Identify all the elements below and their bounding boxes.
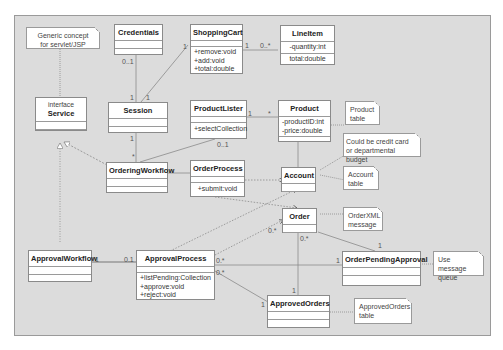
mult-process-approved: 0.* [216, 269, 225, 276]
mult-pending-process: 1 [336, 257, 340, 264]
mult-pending-order: 1 [378, 242, 382, 249]
class-session[interactable]: Session [108, 102, 168, 133]
class-approval-workflow[interactable]: ApprovalWorkflow [28, 250, 92, 282]
class-shopping-cart[interactable]: ShoppingCart +remove:void +add:void +tot… [190, 24, 243, 74]
note-generic-concept: Generic concept for servlet/JSP [26, 27, 100, 49]
note-product-table: Product table [345, 101, 380, 125]
class-account[interactable]: Account [281, 167, 316, 192]
note-credit-card: Could be credit card or departmental bud… [343, 133, 421, 157]
class-order-pending-approval[interactable]: OrderPendingApproval [342, 251, 421, 286]
mult-approvalwf-process: 1 [95, 256, 99, 263]
class-credentials[interactable]: Credentials [114, 24, 163, 55]
note-message-queue: Use message queue [433, 251, 484, 276]
mult-lister-workflow: 0..1 [217, 141, 229, 148]
mult-order-pending: 0.* [300, 235, 309, 242]
mult-session-workflow: 1 [130, 135, 134, 142]
class-approval-process[interactable]: ApprovalProcess +listPending:Collection … [136, 250, 215, 300]
mult-approved-process: 1 [261, 301, 265, 308]
class-order-process[interactable]: OrderProcess +submit:void [190, 160, 245, 197]
mult-product-lister: * [268, 110, 271, 117]
mult-process-approvalwf: 0.1 [124, 256, 134, 263]
class-product[interactable]: Product -productID:int -price:double [278, 100, 331, 142]
mult-credentials-session: 0..1 [122, 58, 134, 65]
class-ordering-workflow[interactable]: OrderingWorkflow [106, 162, 168, 193]
note-order-xml: OrderXML message [343, 207, 383, 231]
note-approved-orders-table: ApprovedOrders table [354, 298, 412, 324]
mult-workflow-session: * [132, 153, 135, 160]
class-line-item[interactable]: LineItem -quantity:int total:double [280, 25, 335, 65]
mult-process-pending: 0.* [216, 257, 225, 264]
mult-lineitem-cart: 0..* [260, 42, 271, 49]
connector-lines [0, 0, 503, 350]
mult-cart-session: 1 [183, 43, 187, 50]
mult-session-credentials: 1 [130, 94, 134, 101]
class-product-lister[interactable]: ProductLister +selectCollection [190, 100, 247, 139]
interface-service[interactable]: interface Service [35, 97, 87, 131]
class-approved-orders[interactable]: ApprovedOrders [267, 295, 330, 328]
note-account-table: Account table [343, 166, 379, 190]
mult-cart-lineitem: 1 [245, 42, 249, 49]
mult-process-order: 0.* [268, 227, 277, 234]
class-order[interactable]: Order [282, 208, 317, 233]
mult-lister-product: 1 [248, 110, 252, 117]
mult-order-approved: 1 [292, 287, 296, 294]
mult-session-cart: 1 [146, 94, 150, 101]
